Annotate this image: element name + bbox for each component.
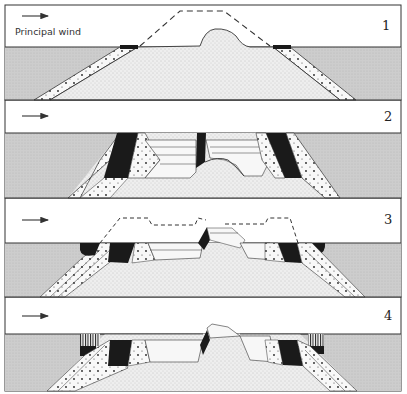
wind-label: Principal wind	[15, 26, 81, 37]
panel-4: 4	[5, 297, 401, 391]
panel-2: 2	[5, 100, 401, 198]
panel-3: 3	[5, 198, 401, 297]
panel-3-number: 3	[384, 212, 392, 227]
panel-3-former-profile-left	[100, 218, 206, 243]
panel-4-left-beach	[80, 334, 100, 346]
panel-1-left-reef	[120, 45, 138, 49]
panel-4-left-lagoon-beds	[145, 340, 203, 362]
panel-1: Principal wind 1	[5, 5, 401, 100]
panel-2-number: 2	[384, 109, 392, 124]
panel-1-number: 1	[382, 18, 390, 33]
panel-4-central-islet	[207, 324, 240, 338]
panel-1-right-reef	[273, 45, 291, 49]
panel-4-right-beach	[308, 334, 324, 346]
panel-4-number: 4	[384, 308, 392, 323]
panel-3-left-lagoon-beds	[148, 243, 203, 260]
reef-development-diagram: Principal wind 1 2	[0, 0, 407, 394]
